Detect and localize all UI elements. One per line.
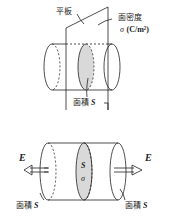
center-area-symbol: S: [81, 162, 85, 170]
sigma-symbol: σ: [120, 25, 124, 34]
right-field-arrow: [114, 165, 142, 175]
area-label-top: 面積S: [73, 99, 95, 107]
center-density-symbol: σ: [81, 175, 85, 183]
plate-label: 平板: [56, 8, 72, 16]
density-label: 面密度: [118, 14, 142, 22]
density-unit: (C/m²): [127, 25, 149, 34]
density-formula: σ (C/m²): [120, 26, 149, 34]
area-label-right: 面積S: [125, 202, 147, 210]
field-right-label: E: [145, 153, 152, 163]
left-field-arrow: [24, 165, 48, 175]
area-label-left: 面積S: [16, 202, 38, 210]
field-left-label: E: [19, 153, 26, 163]
